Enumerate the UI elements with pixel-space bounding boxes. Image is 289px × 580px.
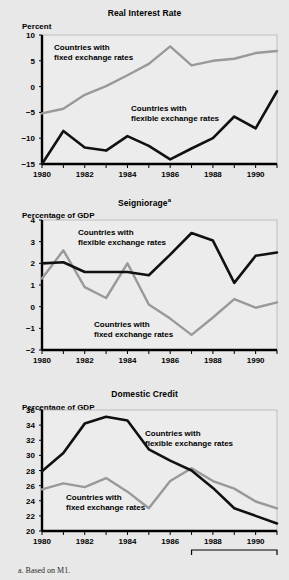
y-axis-tick-label: −1: [26, 324, 36, 333]
series-annotation-label: fixed exchange rates: [94, 330, 174, 339]
y-axis-tick-label: 5: [31, 57, 36, 66]
x-axis-tick-label: 1986: [161, 170, 179, 179]
x-axis-tick-label: 1982: [76, 170, 94, 179]
series-annotation-label: fixed exchange rates: [54, 53, 134, 62]
y-axis-tick-label: 22: [26, 512, 35, 521]
x-axis-tick-label: 1984: [119, 170, 137, 179]
y-axis-tick-label: 28: [26, 467, 35, 476]
chart-panel-seigniorage: Seignioragea Percentage of GDP −2−101234…: [0, 192, 289, 384]
x-axis-tick-label: 1988: [204, 537, 222, 546]
y-axis-tick-label: 4: [31, 216, 36, 225]
x-axis-tick-label: 1986: [161, 537, 179, 546]
y-axis-tick-label: 0: [31, 303, 36, 312]
series-annotation-label: Countries with: [78, 228, 134, 237]
y-axis-tick-label: 1: [31, 281, 36, 290]
series-annotation-label: Countries with: [131, 104, 187, 113]
x-axis-tick-label: 1988: [204, 356, 222, 365]
y-axis-tick-label: 36: [26, 406, 35, 415]
adjustment-period-label: Adjustment period: [199, 559, 270, 560]
x-axis-tick-label: 1990: [247, 170, 265, 179]
y-axis-tick-label: 10: [26, 31, 35, 40]
x-axis-tick-label: 1980: [33, 170, 51, 179]
x-axis-tick-label: 1982: [76, 537, 94, 546]
x-axis-tick-label: 1980: [33, 537, 51, 546]
y-axis-tick-label: 3: [31, 238, 36, 247]
y-axis-tick-label: 0: [31, 83, 36, 92]
y-axis-tick-label: 20: [26, 527, 35, 536]
series-annotation-label: Countries with: [145, 429, 201, 438]
x-axis-tick-label: 1990: [247, 356, 265, 365]
y-axis-tick-label: 2: [31, 259, 36, 268]
y-axis-tick-label: −5: [26, 108, 36, 117]
x-axis-tick-label: 1986: [161, 356, 179, 365]
series-annotation-label: Countries with: [94, 320, 150, 329]
series-annotation-label: Countries with: [54, 43, 110, 52]
plot-area-0: −15−10−50510198019821984198619881990Coun…: [0, 0, 289, 192]
chart-svg-domestic-credit: 2022242628303234361980198219841986198819…: [0, 384, 289, 560]
y-axis-tick-label: 24: [26, 497, 35, 506]
series-annotation-label: flexible exchange rates: [78, 238, 167, 247]
y-axis-tick-label: −15: [21, 160, 35, 169]
x-axis-tick-label: 1990: [247, 537, 265, 546]
y-axis-tick-label: 32: [26, 436, 35, 445]
series-annotation-label: flexible exchange rates: [131, 114, 220, 123]
x-axis-tick-label: 1984: [119, 356, 137, 365]
y-axis-tick-label: 34: [26, 421, 35, 430]
y-axis-tick-label: −10: [21, 134, 35, 143]
adjustment-period-bracket: [192, 550, 277, 555]
y-axis-tick-label: 30: [26, 451, 35, 460]
x-axis-tick-label: 1980: [33, 356, 51, 365]
plot-area-1: −2−101234198019821984198619881990Countri…: [0, 192, 289, 384]
series-annotation-label: fixed exchange rates: [66, 503, 146, 512]
y-axis-tick-label: 26: [26, 482, 35, 491]
plot-area-2: 2022242628303234361980198219841986198819…: [0, 384, 289, 560]
chart-panel-real-interest-rate: Real Interest Rate Percent −15−10−505101…: [0, 0, 289, 192]
chart-svg-real-interest-rate: −15−10−50510198019821984198619881990Coun…: [0, 0, 289, 192]
x-axis-tick-label: 1984: [119, 537, 137, 546]
series-annotation-label: Countries with: [66, 493, 122, 502]
economic-indicators-figure: Real Interest Rate Percent −15−10−505101…: [0, 0, 289, 580]
chart-svg-seigniorage: −2−101234198019821984198619881990Countri…: [0, 192, 289, 384]
chart-panel-domestic-credit: Domestic Credit Percentage of GDP 202224…: [0, 384, 289, 560]
series-annotation-label: flexible exchange rates: [145, 439, 234, 448]
figure-footnote: a. Based on M1.: [18, 566, 70, 575]
y-axis-tick-label: −2: [26, 346, 36, 355]
x-axis-tick-label: 1988: [204, 170, 222, 179]
x-axis-tick-label: 1982: [76, 356, 94, 365]
